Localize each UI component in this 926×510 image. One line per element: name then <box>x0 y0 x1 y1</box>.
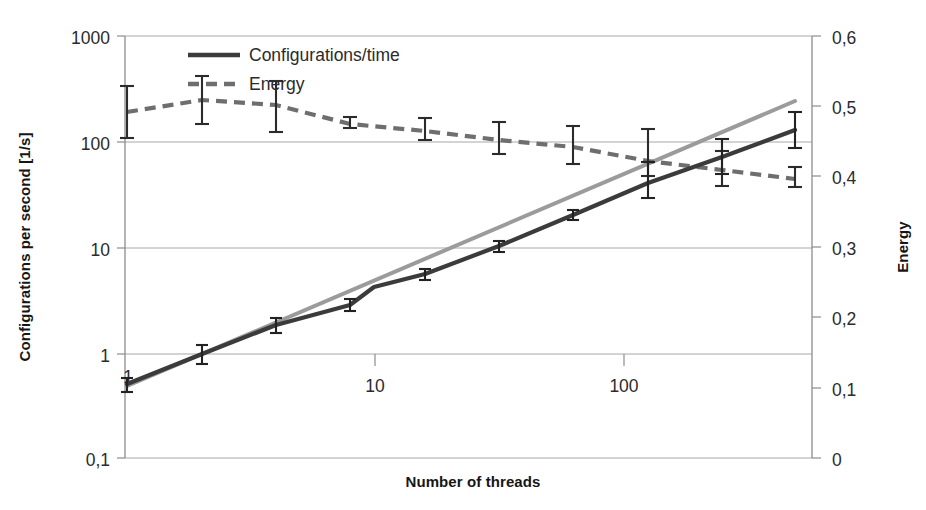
x-axis-title: Number of threads <box>405 473 540 490</box>
y2-axis-title: Energy <box>894 221 911 273</box>
ytick-label-100: 100 <box>81 134 110 154</box>
plot-area-background <box>125 36 812 458</box>
y-axis-title: Configurations per second [1/s] <box>16 133 33 362</box>
y2tick-label-0-6: 0,6 <box>832 28 856 48</box>
ytick-label-0-1: 0,1 <box>86 450 110 470</box>
y2tick-label-0: 0 <box>832 450 842 470</box>
y2tick-label-0-2: 0,2 <box>832 309 856 329</box>
legend-label-energy: Energy <box>249 74 305 94</box>
ytick-label-10: 10 <box>91 240 111 260</box>
legend-label-configurations-time: Configurations/time <box>249 45 400 65</box>
chart-canvas: 1000 100 10 1 0,1 0,6 0,5 0,4 0,3 0,2 0,… <box>0 0 926 510</box>
chart-figure: 1000 100 10 1 0,1 0,6 0,5 0,4 0,3 0,2 0,… <box>0 0 926 510</box>
right-axis <box>812 36 821 458</box>
xtick-label-100: 100 <box>609 376 638 396</box>
y2tick-label-0-1: 0,1 <box>832 380 856 400</box>
xtick-label-10: 10 <box>365 376 385 396</box>
ytick-label-1000: 1000 <box>71 28 110 48</box>
y2tick-label-0-3: 0,3 <box>832 239 856 259</box>
ytick-label-1: 1 <box>100 346 110 366</box>
left-axis <box>117 36 125 458</box>
y2tick-label-0-4: 0,4 <box>832 168 857 188</box>
y2tick-label-0-5: 0,5 <box>832 98 856 118</box>
